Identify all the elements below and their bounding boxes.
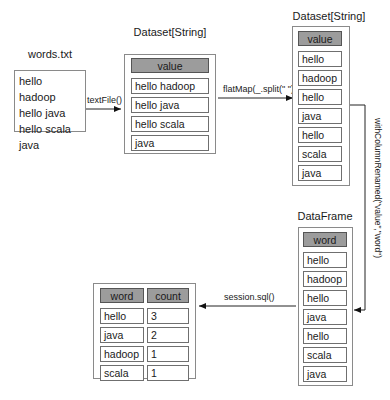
- source-file-box: hello hadoop hello java hello scala java: [14, 70, 86, 132]
- result-count: 2: [147, 327, 189, 343]
- edge-label-sql: session.sql(): [224, 292, 275, 302]
- result-header-word: word: [100, 288, 144, 303]
- dataset2-header: value: [298, 31, 342, 46]
- dataset2-row: hello: [298, 127, 342, 143]
- source-line: java: [19, 137, 81, 153]
- result-word: hello: [100, 308, 144, 324]
- source-line: hello java: [19, 105, 81, 121]
- result-count: 3: [147, 308, 189, 324]
- dataframe-row: hello: [303, 328, 347, 344]
- dataset1-title: Dataset[String]: [124, 26, 216, 38]
- edge-label-textfile: textFile(): [87, 95, 122, 105]
- result-word: hadoop: [100, 346, 144, 362]
- dataset2-title: Dataset[String]: [284, 10, 374, 22]
- dataframe-row: java: [303, 309, 347, 325]
- dataframe-row: scala: [303, 347, 347, 363]
- dataset1-row: java: [131, 135, 209, 151]
- result-count: 1: [147, 346, 189, 362]
- dataset2-row: java: [298, 108, 342, 124]
- edge-label-flatmap: flatMap(_.split(" ")): [223, 84, 297, 94]
- dataset1-row: hello scala: [131, 116, 209, 132]
- dataset2-row: scala: [298, 146, 342, 162]
- dataset1-row: hello java: [131, 97, 209, 113]
- dataframe-row: hadoop: [303, 271, 347, 287]
- dataset2-row: java: [298, 165, 342, 181]
- result-word: scala: [100, 365, 144, 381]
- source-line: hello hadoop: [19, 73, 81, 105]
- dataframe-header: word: [303, 232, 347, 247]
- dataframe-row: hello: [303, 252, 347, 268]
- result-word: java: [100, 327, 144, 343]
- dataframe-row: hello: [303, 290, 347, 306]
- source-line: hello scala: [19, 121, 81, 137]
- source-file-title: words.txt: [14, 48, 86, 60]
- dataframe-title: DataFrame: [296, 210, 354, 222]
- dataset2-row: hello: [298, 89, 342, 105]
- result-count: 1: [147, 365, 189, 381]
- edge-label-rename: withColumnRenamed("value","word"): [373, 118, 383, 258]
- dataset2-frame: [292, 26, 350, 186]
- dataset2-row: hadoop: [298, 70, 342, 86]
- dataset1-header: value: [131, 58, 209, 73]
- dataset2-row: hello: [298, 51, 342, 67]
- dataframe-row: java: [303, 366, 347, 382]
- dataset1-row: hello hadoop: [131, 78, 209, 94]
- result-header-count: count: [147, 288, 189, 303]
